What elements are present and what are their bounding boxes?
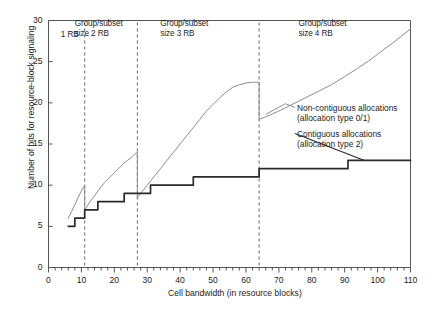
y-axis-title: Number of bits for resource-block signal… [26, 29, 36, 189]
chart-canvas [0, 0, 436, 312]
region-label-3-line1: Group/subset [160, 19, 208, 28]
chart-figure: Number of bits for resource-block signal… [0, 0, 436, 312]
x-tick-label: 60 [232, 275, 260, 285]
series-line-contiguous [68, 160, 410, 226]
x-tick-label: 50 [199, 275, 227, 285]
x-tick-label: 40 [166, 275, 194, 285]
y-tick-label: 25 [23, 56, 43, 66]
x-tick-label: 70 [265, 275, 293, 285]
x-axis-title: Cell bandwidth (in resource blocks) [168, 288, 302, 298]
x-axis-ticks [49, 268, 411, 273]
x-tick-label: 90 [331, 275, 359, 285]
x-tick-label: 0 [35, 275, 63, 285]
legend-leader-line [266, 104, 295, 115]
x-tick-label: 10 [67, 275, 95, 285]
legend-contiguous-allocations: Contiguous allocations(allocation type 2… [297, 129, 381, 150]
legend-noncontiguous-allocations: Non-contiguous allocations(allocation ty… [297, 103, 398, 124]
region-label-2-line1: Group/subset [75, 19, 123, 28]
x-tick-label: 110 [397, 275, 425, 285]
region-label-4-line1: Group/subset [299, 19, 347, 28]
y-tick-label: 30 [23, 15, 43, 25]
y-tick-label: 20 [23, 97, 43, 107]
y-tick-label: 10 [23, 179, 43, 189]
x-tick-label: 20 [100, 275, 128, 285]
x-tick-label: 30 [133, 275, 161, 285]
y-tick-label: 5 [23, 220, 43, 230]
region-label-3-line2: size 3 RB [160, 29, 194, 38]
legend-1-line1: Non-contiguous allocations [297, 103, 398, 113]
x-tick-label: 100 [364, 275, 392, 285]
region-divider-lines [85, 23, 259, 268]
region-label-group-subset-2-rb: Group/subsetsize 2 RB [75, 19, 141, 39]
region-label-group-subset-4-rb: Group/subsetsize 4 RB [299, 19, 365, 39]
region-label-2-line2: size 2 RB [75, 29, 109, 38]
region-label-4-line2: size 4 RB [299, 29, 333, 38]
data-series-group [68, 29, 410, 227]
y-tick-label: 15 [23, 138, 43, 148]
y-axis-ticks [49, 21, 53, 268]
x-tick-label: 80 [298, 275, 326, 285]
legend-2-line1: Contiguous allocations [297, 129, 381, 139]
y-tick-label: 0 [23, 262, 43, 272]
legend-1-line2: (allocation type 0/1) [297, 113, 370, 123]
region-label-group-subset-3-rb: Group/subsetsize 3 RB [160, 19, 226, 39]
legend-2-line2: (allocation type 2) [297, 139, 363, 149]
